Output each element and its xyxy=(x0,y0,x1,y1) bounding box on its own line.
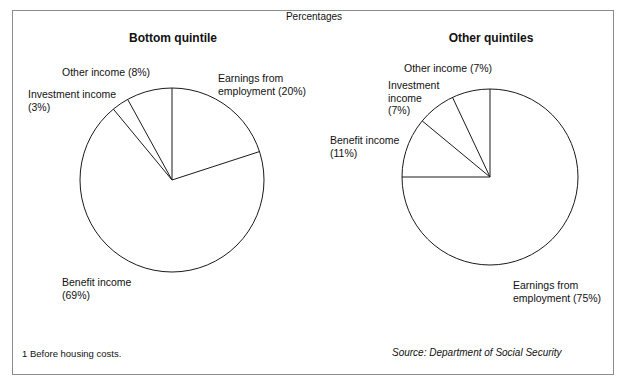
slice-label-other-quintiles-other-income: Other income (7%) xyxy=(404,62,492,75)
slice-label-other-quintiles-benefit-income: Benefit income (11%) xyxy=(330,134,399,159)
slice-label-bottom-quintile-earnings-from-employment: Earnings from employment (20%) xyxy=(218,72,306,97)
pie-bottom-quintile xyxy=(80,88,264,272)
pie-slice-divider-other-income xyxy=(453,97,490,177)
pie-charts-canvas xyxy=(0,0,628,390)
slice-label-bottom-quintile-benefit-income: Benefit income (69%) xyxy=(62,276,131,301)
pie-slice-divider-investment-income xyxy=(422,121,490,177)
pie-slice-divider-investment-income xyxy=(113,109,172,180)
slice-label-bottom-quintile-other-income: Other income (8%) xyxy=(62,66,150,79)
figure-container: Percentages Bottom quintile Other quinti… xyxy=(0,0,628,390)
slice-label-bottom-quintile-investment-income: Investment income (3%) xyxy=(28,88,116,113)
pie-slice-divider-benefit-income xyxy=(172,152,260,180)
slice-label-other-quintiles-investment-income: Investment income (7%) xyxy=(388,79,439,117)
pie-slice-divider-other-income xyxy=(128,99,172,180)
footnote: 1 Before housing costs. xyxy=(22,348,121,360)
source-note: Source: Department of Social Security xyxy=(392,347,562,359)
slice-label-other-quintiles-earnings-from-employment: Earnings from employment (75%) xyxy=(513,279,601,304)
